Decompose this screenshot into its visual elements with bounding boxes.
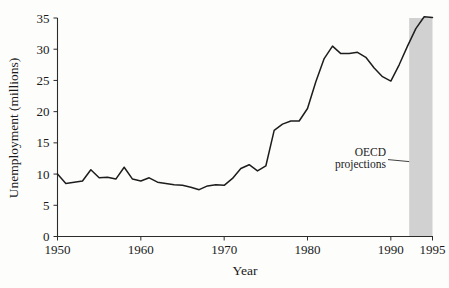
x-axis-ticks: 195019601970198019901995 xyxy=(45,237,446,257)
annotation-leader-line xyxy=(388,160,409,162)
x-tick-label: 1970 xyxy=(211,242,237,257)
unemployment-line-chart: 05101520253035 195019601970198019901995 … xyxy=(0,0,449,288)
x-axis-title: Year xyxy=(233,263,258,278)
axes-group xyxy=(58,18,434,237)
chart-figure: 05101520253035 195019601970198019901995 … xyxy=(0,0,449,288)
projection-shaded-band xyxy=(409,18,432,237)
y-tick-label: 25 xyxy=(37,73,50,88)
y-tick-label: 10 xyxy=(37,167,50,182)
annotation-oecd-label: OECD xyxy=(355,146,386,158)
x-tick-label: 1980 xyxy=(295,242,321,257)
y-tick-label: 35 xyxy=(37,11,50,26)
x-tick-label: 1990 xyxy=(378,242,404,257)
y-axis-title: Unemployment (millions) xyxy=(6,58,21,199)
y-tick-label: 15 xyxy=(37,135,50,150)
y-tick-label: 5 xyxy=(43,198,50,213)
annotation-projections-label: projections xyxy=(335,158,387,171)
x-tick-label: 1950 xyxy=(45,242,71,257)
projection-band-group xyxy=(409,18,432,237)
x-tick-label: 1960 xyxy=(128,242,154,257)
y-axis-ticks: 05101520253035 xyxy=(37,11,58,245)
y-tick-label: 30 xyxy=(37,42,50,57)
y-tick-label: 20 xyxy=(37,104,50,119)
x-tick-label: 1995 xyxy=(420,242,446,257)
